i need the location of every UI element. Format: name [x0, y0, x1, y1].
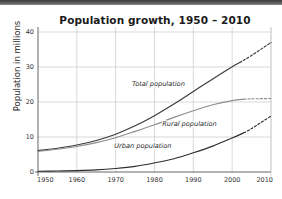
chart-card: Population growth, 1950 – 2010 Populatio… — [0, 5, 282, 199]
svg-text:1950: 1950 — [37, 176, 54, 184]
svg-text:40: 40 — [26, 28, 34, 36]
svg-text:1970: 1970 — [107, 176, 124, 184]
svg-text:2000: 2000 — [224, 176, 241, 184]
chart-plot: 010203040 1950196019701980199020002010 T… — [0, 5, 282, 199]
x-tick-labels: 1950196019701980199020002010 — [37, 176, 273, 184]
series-label-1: Rural population — [162, 120, 217, 128]
svg-text:0: 0 — [30, 168, 34, 176]
svg-text:1990: 1990 — [185, 176, 202, 184]
svg-text:2010: 2010 — [256, 176, 273, 184]
series-label-0: Total population — [132, 80, 185, 88]
svg-text:10: 10 — [26, 133, 34, 141]
series-line-dashed-1 — [244, 99, 271, 100]
svg-text:1960: 1960 — [69, 176, 86, 184]
series-line-dashed-2 — [244, 116, 271, 133]
series-line-solid-2 — [38, 133, 244, 172]
axis-lines — [35, 27, 271, 176]
series-line-solid-0 — [38, 62, 240, 150]
svg-text:1980: 1980 — [146, 176, 163, 184]
series-label-2: Urban population — [114, 142, 171, 150]
series-line-dashed-0 — [240, 43, 271, 63]
y-tick-labels: 010203040 — [26, 28, 34, 176]
svg-text:20: 20 — [26, 98, 34, 106]
series-labels: Total populationTotal populationRural po… — [114, 80, 216, 150]
svg-text:30: 30 — [26, 63, 34, 71]
